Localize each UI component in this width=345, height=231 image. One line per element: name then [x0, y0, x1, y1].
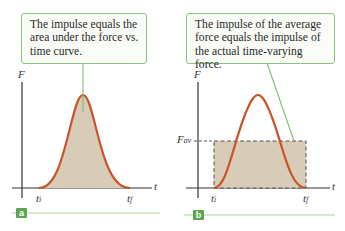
- t-final-label-a: tf: [127, 192, 132, 204]
- x-axis-label-a: t: [154, 180, 157, 192]
- y-axis-label-a: F: [18, 68, 25, 80]
- panel-b-graph: [184, 63, 335, 215]
- t-final-label-b: tf: [303, 192, 308, 204]
- callout-a-text: The impulse equals the area under the fo…: [30, 18, 138, 58]
- avg-force-label: Fav: [177, 133, 191, 145]
- average-force-rect: [214, 141, 306, 188]
- y-axis-label-b: F: [194, 68, 201, 80]
- panel-a-graph: [12, 63, 160, 213]
- x-axis-label-b: t: [332, 180, 335, 192]
- callout-pointer: [267, 63, 294, 141]
- panel-tag-b: b: [193, 210, 204, 220]
- callout-a: The impulse equals the area under the fo…: [21, 13, 147, 64]
- t-initial-label-a: ti: [36, 192, 41, 204]
- callout-b: The impulse of the average force equals …: [186, 13, 335, 64]
- callout-b-text: The impulse of the average force equals …: [195, 18, 321, 71]
- t-initial-label-b: ti: [211, 192, 216, 204]
- panel-tag-a: a: [16, 208, 27, 218]
- impulse-area: [39, 95, 130, 188]
